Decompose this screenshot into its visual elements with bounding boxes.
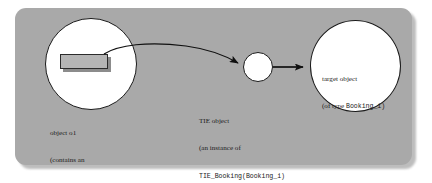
target-label-line-2: (of type Booking_i): [322, 102, 385, 111]
diagram-canvas: object o1 (contains an object reference …: [0, 0, 432, 183]
tie-label-line-2: (an instance of: [199, 144, 287, 153]
tie-object-label: TIE object (an instance of TIE_Booking(B…: [199, 99, 287, 183]
target-label-line-2-text: (of type: [322, 102, 346, 110]
tie-label-class-signature: TIE_Booking(Booking_i): [199, 172, 287, 181]
target-object-label: target object (of type Booking_i): [322, 57, 385, 130]
target-label-type: Booking_i): [346, 103, 385, 110]
tie-label-line-1: TIE object: [199, 117, 287, 126]
tie-object-circle: [243, 52, 273, 82]
source-label-line-2: (contains an: [50, 156, 115, 165]
source-object-label: object o1 (contains an object reference …: [50, 111, 115, 183]
target-label-line-1: target object: [322, 75, 385, 84]
object-reference-box: [60, 54, 108, 69]
source-label-line-1: object o1: [50, 129, 115, 138]
